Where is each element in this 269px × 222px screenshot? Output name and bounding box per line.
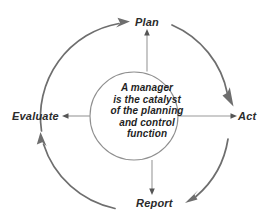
arc-act-to-report-path [196, 139, 228, 197]
spoke-center-to-report [149, 160, 155, 195]
management-cycle-diagram: A manager is the catalyst of the plannin… [0, 0, 269, 222]
node-label-report: Report [136, 197, 173, 209]
node-label-plan: Plan [135, 16, 159, 28]
spoke-center-to-evaluate-arrowhead [62, 113, 69, 119]
arc-plan-to-act-arrowhead [223, 87, 234, 106]
arc-plan-to-act [172, 25, 234, 107]
spoke-center-to-evaluate [62, 113, 90, 119]
arc-act-to-report [185, 139, 228, 203]
center-circle [90, 72, 178, 160]
spoke-center-to-report-arrowhead [149, 189, 155, 196]
arc-report-to-evaluate-path [44, 144, 116, 209]
spoke-center-to-act [178, 113, 237, 119]
node-label-act: Act [238, 110, 256, 122]
arc-evaluate-to-plan-arrowhead [116, 18, 130, 28]
arc-plan-to-act-path [172, 25, 228, 94]
spoke-center-to-plan-arrowhead [144, 29, 150, 36]
spoke-center-to-act-arrowhead [231, 113, 238, 119]
node-label-evaluate: Evaluate [12, 110, 59, 122]
arc-report-to-evaluate-arrowhead [37, 132, 47, 146]
spoke-center-to-plan [144, 29, 150, 72]
